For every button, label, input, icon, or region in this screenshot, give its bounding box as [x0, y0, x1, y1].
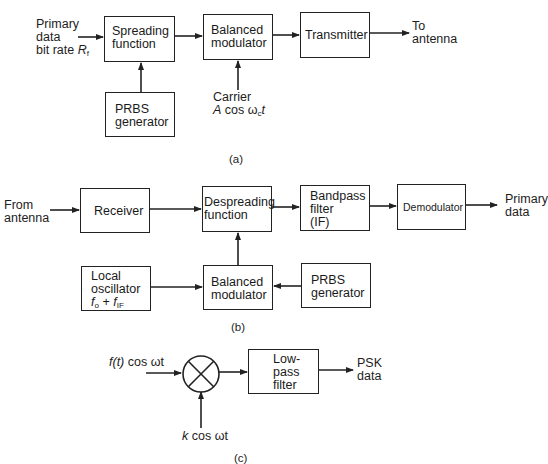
- balanced-modulator-block-a: Balancedmodulator: [203, 14, 273, 60]
- demodulator-block: Demodulator: [397, 184, 466, 230]
- prbs-generator-block-b: PRBSgenerator: [301, 263, 371, 308]
- to-antenna-label: Toantenna: [412, 20, 457, 46]
- primary-data-output-label: Primarydata: [505, 193, 548, 219]
- bandpass-filter-block: Bandpassfilter(IF): [300, 185, 370, 231]
- carrier-label: CarrierA cos ωct: [213, 91, 265, 120]
- panel-a-caption: (a): [229, 153, 243, 165]
- reference-carrier-label: k cos ωt: [182, 430, 228, 443]
- balanced-modulator-block-b: Balancedmodulator: [203, 265, 273, 310]
- receiver-block: Receiver: [80, 188, 150, 233]
- panel-c-caption: (c): [234, 452, 247, 464]
- local-oscillator-block: Localoscillatorfo + fIF: [81, 266, 151, 311]
- input-signal-label: f(t) cos ωt: [109, 356, 164, 369]
- spreading-function-block: Spreadingfunction: [104, 16, 175, 62]
- prbs-generator-block-a: PRBSgenerator: [105, 92, 175, 137]
- from-antenna-label: Fromantenna: [4, 199, 49, 225]
- psk-data-output-label: PSKdata: [357, 357, 382, 383]
- lowpass-filter-block: Low-passfilter: [248, 349, 319, 394]
- despreading-function-block: Despreadingfunction: [202, 186, 272, 232]
- mixer-multiplier-icon: [183, 356, 219, 392]
- primary-data-input-label: Primarydatabit rate Rf: [36, 18, 89, 60]
- transmitter-block: Transmitter: [300, 12, 370, 58]
- panel-b-caption: (b): [231, 321, 245, 333]
